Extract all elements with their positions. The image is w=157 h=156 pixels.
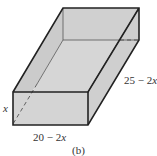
box-diagram: x 20 − 2x 25 − 2x (b): [0, 0, 157, 156]
caption: (b): [72, 144, 85, 156]
front-face: [13, 92, 88, 125]
height-label: x: [2, 102, 8, 114]
depth-label: 25 − 2x: [124, 74, 157, 86]
width-label: 20 − 2x: [33, 131, 66, 143]
